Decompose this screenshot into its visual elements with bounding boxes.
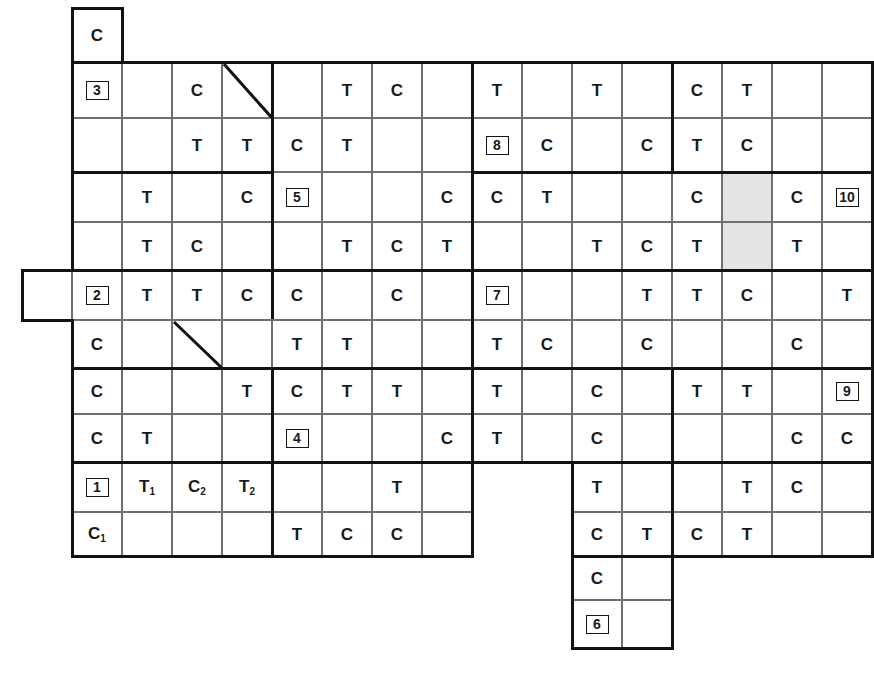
grid-cell[interactable]: C2 (172, 462, 222, 512)
grid-cell[interactable]: C (372, 222, 422, 270)
grid-cell[interactable]: T (372, 368, 422, 414)
grid-cell-clue-7[interactable]: 7 (472, 270, 522, 320)
grid-cell-clue-9[interactable]: 9 (822, 368, 872, 414)
grid-cell[interactable] (822, 512, 872, 556)
grid-cell[interactable] (822, 462, 872, 512)
grid-cell[interactable]: T (122, 222, 172, 270)
grid-cell[interactable] (622, 62, 672, 118)
grid-cell[interactable] (272, 462, 322, 512)
grid-cell[interactable] (172, 414, 222, 462)
grid-cell[interactable] (422, 368, 472, 414)
grid-cell[interactable]: C (572, 512, 622, 556)
grid-cell[interactable]: C (572, 414, 622, 462)
grid-cell[interactable]: T (472, 320, 522, 368)
grid-cell-clue-8[interactable]: 8 (472, 118, 522, 172)
grid-cell[interactable]: T (572, 462, 622, 512)
grid-cell[interactable] (322, 270, 372, 320)
grid-cell[interactable]: T (822, 270, 872, 320)
grid-cell[interactable] (172, 320, 222, 368)
grid-cell[interactable]: C (372, 512, 422, 556)
grid-cell[interactable] (222, 320, 272, 368)
grid-cell[interactable] (622, 414, 672, 462)
grid-cell[interactable] (72, 222, 122, 270)
grid-cell[interactable]: C (172, 62, 222, 118)
grid-cell[interactable] (172, 172, 222, 222)
grid-cell[interactable]: C (672, 512, 722, 556)
grid-cell[interactable] (572, 270, 622, 320)
grid-cell[interactable]: C (372, 62, 422, 118)
grid-cell[interactable]: T (372, 462, 422, 512)
grid-cell[interactable]: C (772, 172, 822, 222)
grid-cell[interactable]: C (422, 172, 472, 222)
grid-cell[interactable]: T (622, 270, 672, 320)
grid-cell[interactable]: C (772, 414, 822, 462)
grid-cell[interactable] (772, 118, 822, 172)
grid-cell[interactable] (822, 222, 872, 270)
grid-cell[interactable]: C (622, 118, 672, 172)
grid-cell[interactable] (622, 368, 672, 414)
grid-cell[interactable] (772, 270, 822, 320)
grid-cell-clue-1[interactable]: 1 (72, 462, 122, 512)
grid-cell[interactable]: T (322, 118, 372, 172)
grid-cell[interactable] (172, 512, 222, 556)
grid-cell-clue-10[interactable]: 10 (822, 172, 872, 222)
grid-cell[interactable] (572, 172, 622, 222)
grid-cell[interactable] (722, 222, 772, 270)
grid-cell[interactable]: C (672, 172, 722, 222)
grid-cell[interactable] (422, 270, 472, 320)
grid-cell[interactable] (422, 320, 472, 368)
grid-cell-clue-5[interactable]: 5 (272, 172, 322, 222)
grid-cell[interactable] (822, 320, 872, 368)
grid-cell[interactable] (172, 368, 222, 414)
grid-cell[interactable] (522, 368, 572, 414)
grid-cell[interactable] (772, 512, 822, 556)
grid-cell[interactable]: T (122, 270, 172, 320)
grid-cell[interactable] (122, 62, 172, 118)
grid-cell[interactable] (422, 62, 472, 118)
grid-cell[interactable] (222, 512, 272, 556)
grid-cell[interactable] (622, 172, 672, 222)
grid-cell[interactable]: C (72, 320, 122, 368)
grid-cell[interactable]: T (672, 222, 722, 270)
grid-cell-clue-6[interactable]: 6 (572, 600, 622, 648)
grid-cell[interactable] (472, 222, 522, 270)
grid-cell[interactable]: T (672, 118, 722, 172)
grid-cell[interactable]: T (722, 512, 772, 556)
grid-cell[interactable]: C (572, 368, 622, 414)
grid-cell[interactable] (372, 118, 422, 172)
grid-cell[interactable]: C (822, 414, 872, 462)
grid-cell[interactable] (322, 462, 372, 512)
grid-cell[interactable] (72, 172, 122, 222)
grid-cell[interactable] (822, 62, 872, 118)
grid-cell[interactable] (72, 118, 122, 172)
grid-cell[interactable]: T (222, 118, 272, 172)
grid-cell[interactable]: T (672, 270, 722, 320)
grid-cell[interactable] (672, 414, 722, 462)
grid-cell[interactable] (622, 556, 672, 600)
grid-cell[interactable] (372, 320, 422, 368)
grid-cell[interactable]: T (422, 222, 472, 270)
grid-cell[interactable]: T (122, 172, 172, 222)
grid-cell[interactable] (322, 414, 372, 462)
grid-cell[interactable] (522, 222, 572, 270)
grid-cell[interactable] (622, 600, 672, 648)
grid-cell[interactable]: C (622, 320, 672, 368)
grid-cell[interactable] (572, 320, 622, 368)
grid-cell[interactable] (272, 222, 322, 270)
grid-cell[interactable]: C (772, 462, 822, 512)
grid-cell[interactable]: T (322, 222, 372, 270)
grid-cell[interactable] (572, 118, 622, 172)
grid-cell[interactable] (272, 62, 322, 118)
grid-cell[interactable] (372, 172, 422, 222)
grid-cell[interactable]: C (222, 270, 272, 320)
grid-cell[interactable] (522, 62, 572, 118)
grid-cell[interactable]: T (572, 62, 622, 118)
grid-cell[interactable]: T (272, 320, 322, 368)
grid-cell[interactable]: T (722, 462, 772, 512)
grid-cell[interactable] (772, 368, 822, 414)
grid-cell[interactable]: C (522, 320, 572, 368)
grid-cell[interactable]: C (72, 368, 122, 414)
grid-cell[interactable]: T (172, 118, 222, 172)
grid-cell[interactable]: T (722, 368, 772, 414)
grid-cell[interactable]: T (222, 368, 272, 414)
